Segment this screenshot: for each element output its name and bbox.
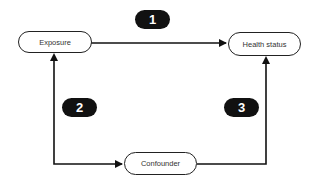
node-exposure-label: Exposure bbox=[39, 38, 71, 47]
arrowhead-to-exposure-icon bbox=[50, 53, 58, 61]
arrowhead-to-health-status-icon bbox=[262, 56, 270, 64]
badge-1: 1 bbox=[135, 10, 170, 29]
node-exposure: Exposure bbox=[18, 31, 92, 53]
badge-2: 2 bbox=[62, 98, 97, 117]
badge-3-label: 3 bbox=[238, 100, 245, 115]
node-health-status: Health status bbox=[228, 32, 301, 56]
badge-1-label: 1 bbox=[149, 12, 156, 27]
badge-2-label: 2 bbox=[76, 100, 83, 115]
badge-3: 3 bbox=[224, 98, 259, 117]
node-confounder: Confounder bbox=[124, 152, 197, 175]
node-confounder-label: Confounder bbox=[141, 159, 180, 168]
node-health-status-label: Health status bbox=[243, 40, 287, 49]
